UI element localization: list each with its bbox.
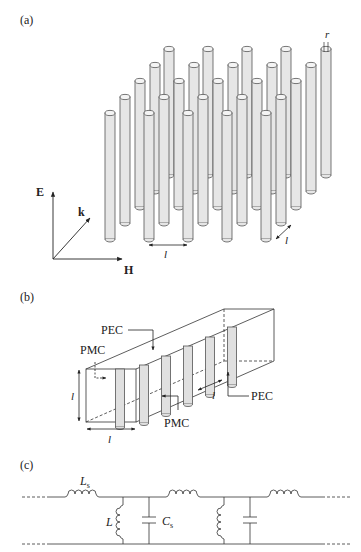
h-field-label: H xyxy=(124,263,134,277)
spacing-label-x: l xyxy=(164,248,167,260)
spacing-arrow-depth xyxy=(276,225,291,239)
shunt-inductor-label: L xyxy=(105,515,113,529)
shunt-capacitor-label: Cs xyxy=(162,514,173,530)
radius-label: r xyxy=(325,28,330,40)
transmission-line-circuit xyxy=(22,490,350,544)
e-field-label: E xyxy=(36,185,44,199)
pec-right-label: PEC xyxy=(251,389,273,403)
series-inductor-1 xyxy=(65,490,99,497)
figure-canvas: (a) r l l E k H (b) xyxy=(0,0,361,552)
series-inductor-label: Ls xyxy=(79,474,90,490)
series-inductor-3 xyxy=(267,490,301,497)
height-label: l xyxy=(71,390,74,402)
panel-b-label: (b) xyxy=(20,290,34,304)
k-vector-label: k xyxy=(78,205,85,219)
pmc-bottom-label: PMC xyxy=(164,416,189,430)
shunt-inductor-2 xyxy=(217,505,224,539)
shunt-inductor-1 xyxy=(116,505,123,539)
panel-a-label: (a) xyxy=(20,13,33,27)
rod-array xyxy=(105,46,331,242)
spacing-label-depth: l xyxy=(285,234,288,246)
pmc-left-label: PMC xyxy=(80,343,105,357)
pec-top-label: PEC xyxy=(101,323,123,337)
period-label: l xyxy=(212,389,215,401)
unit-cell-rods xyxy=(116,327,237,430)
series-inductor-2 xyxy=(166,490,200,497)
panel-c-label: (c) xyxy=(20,458,33,472)
width-label: l xyxy=(108,433,111,445)
pec-top-leader xyxy=(128,330,153,350)
